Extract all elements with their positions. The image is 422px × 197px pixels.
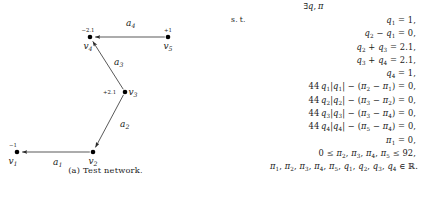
constraint-row: s. t.q1 = 1,	[211, 13, 422, 27]
constraint-expression: 44 q2|q2| − (π3 − π2) = 0,	[309, 94, 416, 107]
constraint-row: q2 − q1 = 0,	[211, 27, 422, 40]
constraint-row: 44 q1|q1| − (π2 − π1) = 0,	[211, 80, 422, 93]
node-dot-v5	[166, 35, 171, 40]
arc-lines-group	[22, 37, 165, 152]
node-dots-group	[15, 35, 171, 155]
node-supply-v4: −2.1	[81, 27, 94, 33]
constraint-row: π1, π2, π3, π4, π5, q1, q2, q3, q4 ∈ ℝ.	[211, 160, 422, 173]
node-supply-v1: −1	[9, 142, 17, 148]
constraint-expression: 0 ≤ π2, π3, π4, π5 ≤ 92,	[319, 147, 416, 160]
node-supply-v3: +2.1	[103, 89, 116, 95]
constraint-expression: q2 + q3 = 2.1,	[356, 41, 416, 54]
node-label-v5: v5	[163, 41, 172, 52]
constraint-row: q4 = 1,	[211, 67, 422, 80]
test-network-figure: v1−1v2v3+2.1v4−2.1v5+1 a1a2a3a4 (a) Test…	[0, 0, 211, 197]
node-dot-v3	[123, 90, 128, 95]
node-label-v3: v3	[128, 87, 137, 98]
node-dot-v2	[91, 150, 96, 155]
constraint-expression: 44 q3|q3| − (π3 − π4) = 0,	[309, 107, 416, 120]
node-dot-v1	[15, 150, 20, 155]
figure-page: v1−1v2v3+2.1v4−2.1v5+1 a1a2a3a4 (a) Test…	[0, 0, 422, 197]
constraint-expression: q4 = 1,	[386, 67, 416, 80]
constraint-expression: q2 − q1 = 0,	[365, 27, 416, 40]
constraint-row: ∃q, π	[211, 0, 422, 13]
constraint-expression: 44 q4|q4| − (π5 − π4) = 0,	[309, 120, 416, 133]
constraint-expression: q3 + q4 = 2.1,	[356, 54, 416, 67]
node-labels-group: v1−1v2v3+2.1v4−2.1v5+1	[8, 27, 172, 167]
constraint-expression: π1, π2, π3, π4, π5, q1, q2, q3, q4 ∈ ℝ.	[270, 160, 418, 173]
constraint-expression: q1 = 1,	[386, 13, 416, 27]
constraint-row: 44 q4|q4| − (π5 − π4) = 0,	[211, 120, 422, 133]
constraint-expression: π1 = 0,	[386, 134, 416, 147]
arc-label-a3: a3	[114, 57, 123, 68]
constraint-row: π1 = 0,	[211, 134, 422, 147]
node-label-v4: v4	[83, 41, 92, 52]
constraint-row: q2 + q3 = 2.1,	[211, 41, 422, 54]
constraint-row: q3 + q4 = 2.1,	[211, 54, 422, 67]
existence-statement: ∃q, π	[211, 0, 416, 13]
constraint-expression: 44 q1|q1| − (π2 − π1) = 0,	[309, 80, 416, 93]
node-dot-v4	[88, 35, 93, 40]
constraint-row: 44 q3|q3| − (π3 − π4) = 0,	[211, 107, 422, 120]
arc-label-a4: a4	[126, 18, 135, 29]
constraint-system-block: ∃q, πs. t.q1 = 1,q2 − q1 = 0,q2 + q3 = 2…	[211, 0, 422, 197]
constraint-row: 44 q2|q2| − (π3 − π2) = 0,	[211, 94, 422, 107]
subject-to-label: s. t.	[231, 13, 246, 27]
arc-label-a2: a2	[120, 119, 129, 130]
constraint-row: 0 ≤ π2, π3, π4, π5 ≤ 92,	[211, 147, 422, 160]
node-supply-v5: +1	[164, 27, 172, 33]
figure-caption: (a) Test network.	[0, 165, 211, 175]
